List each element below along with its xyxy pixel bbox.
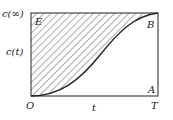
label-c-t: c(t) <box>6 46 24 57</box>
label-E: E <box>34 16 43 27</box>
label-c-inf: c(∞) <box>2 8 24 19</box>
hatched-area <box>31 13 158 96</box>
diagram: c(∞) c(t) E B A O t T <box>0 0 173 120</box>
label-T: T <box>151 100 159 111</box>
label-O: O <box>26 100 34 111</box>
label-t: t <box>92 102 97 113</box>
cumulative-curve-diagram: c(∞) c(t) E B A O t T <box>0 0 173 120</box>
label-A: A <box>147 84 155 95</box>
label-B: B <box>146 19 154 30</box>
